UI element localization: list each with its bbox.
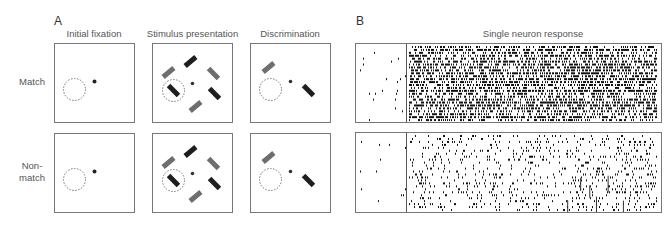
match-initial-fixation-panel	[55, 44, 135, 123]
nonmatch-discrimination-panel	[251, 134, 331, 213]
match-stimulus-panel	[153, 44, 233, 123]
raster-nonmatch	[355, 132, 662, 213]
raster-match	[355, 43, 662, 123]
nonmatch-stimulus-panel	[153, 134, 233, 213]
match-discrimination-panel	[251, 44, 331, 123]
nonmatch-initial-fixation-panel	[55, 134, 135, 213]
